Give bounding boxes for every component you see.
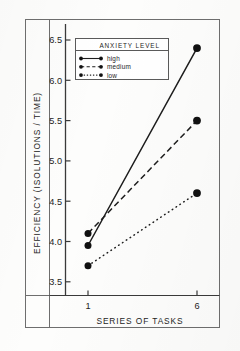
- data-point-high-6: [193, 44, 201, 52]
- legend-marker-medium-left: [79, 65, 83, 69]
- data-point-medium-1: [85, 230, 92, 237]
- legend-title: ANXIETY LEVEL: [99, 42, 160, 49]
- data-point-low-6: [193, 189, 201, 197]
- y-tick-marks: [66, 40, 71, 282]
- legend: ANXIETY LEVEL high medium low: [76, 39, 169, 80]
- y-tick-label: 4.0: [49, 237, 62, 247]
- figure-container: A PARTIAL HEADING AT THE SCAN EDGE 6.5 6…: [0, 0, 240, 351]
- legend-marker-low-right: [99, 73, 103, 77]
- y-tick-label: 5.5: [49, 116, 62, 126]
- y-axis-title: EFFICIENCY (ISOLUTIONS / TIME): [32, 92, 42, 254]
- data-point-low-1: [85, 262, 92, 269]
- legend-label-medium: medium: [107, 63, 131, 70]
- legend-marker-high-right: [99, 57, 103, 61]
- y-tick-labels: 6.5 6.0 5.5 5.0 4.5 4.0 3.5: [49, 35, 62, 287]
- legend-label-low: low: [107, 72, 117, 79]
- y-tick-label: 6.5: [49, 35, 62, 45]
- data-point-high-1: [85, 242, 92, 249]
- legend-marker-low-left: [79, 73, 83, 77]
- x-tick-labels: 1 6: [85, 301, 199, 311]
- y-tick-label: 4.5: [49, 197, 62, 207]
- y-tick-label: 3.5: [49, 277, 62, 287]
- x-tick-label: 6: [194, 301, 199, 311]
- y-tick-label: 5.0: [49, 156, 62, 166]
- legend-marker-medium-right: [99, 65, 103, 69]
- y-tick-label: 6.0: [49, 76, 62, 86]
- chart-svg: 6.5 6.0 5.5 5.0 4.5 4.0 3.5 1 6 SERIES O…: [0, 0, 240, 351]
- x-tick-marks: [88, 291, 197, 296]
- x-axis-title: SERIES OF TASKS: [96, 316, 183, 326]
- x-tick-label: 1: [85, 301, 90, 311]
- legend-label-high: high: [107, 55, 120, 63]
- series-line-medium: [88, 121, 197, 234]
- series-line-low: [88, 193, 197, 266]
- data-point-medium-6: [193, 117, 201, 125]
- legend-marker-high-left: [79, 57, 83, 61]
